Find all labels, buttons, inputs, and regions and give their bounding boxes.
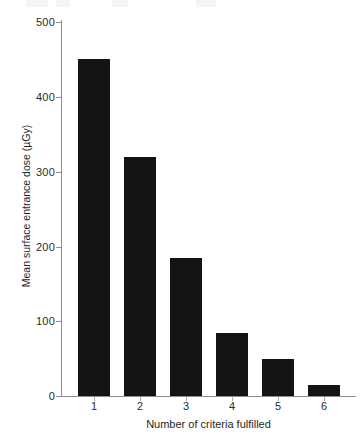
y-axis-tick-500 (56, 22, 62, 23)
y-axis-tick-label-0: 0 (15, 391, 55, 402)
bar-category-6 (308, 385, 340, 396)
bar-category-1 (78, 59, 110, 396)
scan-artifact (26, 0, 48, 7)
y-axis-tick-label-500: 500 (15, 17, 55, 28)
x-axis-title: Number of criteria fulfilled (61, 418, 356, 431)
bar-category-5 (262, 359, 294, 396)
scan-artifact (196, 0, 216, 7)
bar-category-2 (124, 157, 156, 396)
y-axis-tick-300 (56, 172, 62, 173)
y-axis-tick-400 (56, 97, 62, 98)
y-axis-tick-100 (56, 321, 62, 322)
x-axis-line (61, 396, 356, 397)
bar-chart: 500 400 300 200 100 0 1 2 3 4 5 6 Mean s… (0, 0, 364, 439)
x-axis-tick-label-3: 3 (174, 400, 198, 412)
x-axis-tick-label-6: 6 (312, 400, 336, 412)
scan-artifact (112, 0, 128, 7)
x-axis-tick-label-2: 2 (128, 400, 152, 412)
y-axis-tick-label-100: 100 (15, 316, 55, 327)
y-axis-tick-0 (56, 396, 62, 397)
y-axis-line (61, 20, 62, 397)
bar-category-3 (170, 258, 202, 396)
x-axis-tick-label-4: 4 (220, 400, 244, 412)
y-axis-tick-label-400: 400 (15, 92, 55, 103)
scan-artifact (56, 0, 70, 7)
x-axis-tick-label-5: 5 (266, 400, 290, 412)
y-axis-tick-200 (56, 247, 62, 248)
x-axis-tick-label-1: 1 (82, 400, 106, 412)
bar-category-4 (216, 333, 248, 396)
y-axis-title: Mean surface entrance dose (µGy) (20, 106, 32, 306)
